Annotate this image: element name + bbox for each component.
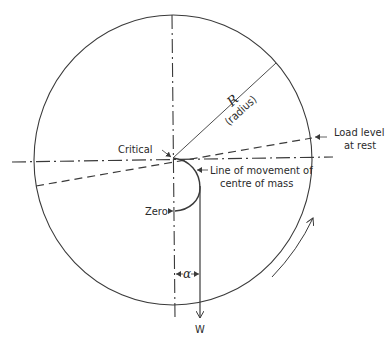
critical-label: Critical <box>118 143 153 156</box>
weight-label: W <box>195 323 205 336</box>
line-movement-label-line2: centre of mass <box>220 177 293 190</box>
horizontal-centerline <box>12 157 333 162</box>
radius-line <box>173 63 276 158</box>
zero-label: Zero <box>145 205 168 218</box>
critical-pointer <box>162 150 171 157</box>
centre-of-mass-path <box>173 158 200 211</box>
line-movement-label-line1: Line of movement of <box>210 164 313 177</box>
load-level-label-line2: at rest <box>344 139 376 152</box>
load-level-label-line1: Load level <box>334 126 384 139</box>
rotation-arrow-icon <box>272 218 313 277</box>
alpha-label: α <box>183 267 191 281</box>
vertical-centerline <box>172 15 175 318</box>
drum-load-diagram: R (radius) Critical Load level at rest L… <box>0 0 391 338</box>
